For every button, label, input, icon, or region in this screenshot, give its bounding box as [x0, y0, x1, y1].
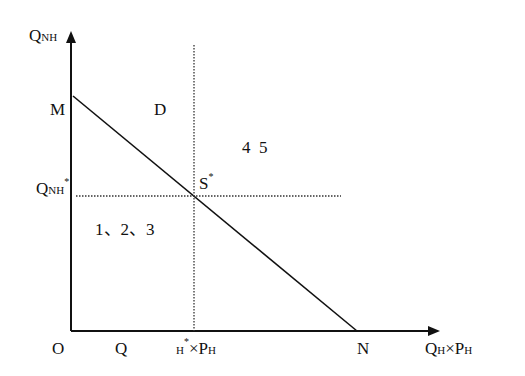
q-nh-star-label: QNH* — [36, 180, 69, 197]
budget-line-mn — [73, 96, 357, 331]
x-axis-arrow-icon — [428, 326, 440, 336]
equilibrium-point-label: S* — [199, 175, 213, 192]
diagram-canvas — [0, 0, 525, 376]
y-axis-arrow-icon — [66, 31, 76, 43]
x-star-label: H*×PH — [176, 340, 216, 357]
region-right-label: 4 5 — [242, 139, 268, 156]
budget-line-diagram: QNH M D 4 5 QNH* S* 1、2、3 O Q H*×PH N QH… — [0, 0, 525, 376]
y-axis-label: QNH — [29, 27, 57, 44]
origin-label: O — [52, 340, 64, 357]
point-n-label: N — [357, 340, 369, 357]
point-d-label: D — [154, 101, 166, 118]
x-star-q-label: Q — [115, 340, 127, 357]
region-left-label: 1、2、3 — [95, 221, 155, 238]
point-m-label: M — [50, 101, 65, 118]
x-axis-label: QH×PH — [425, 340, 472, 357]
